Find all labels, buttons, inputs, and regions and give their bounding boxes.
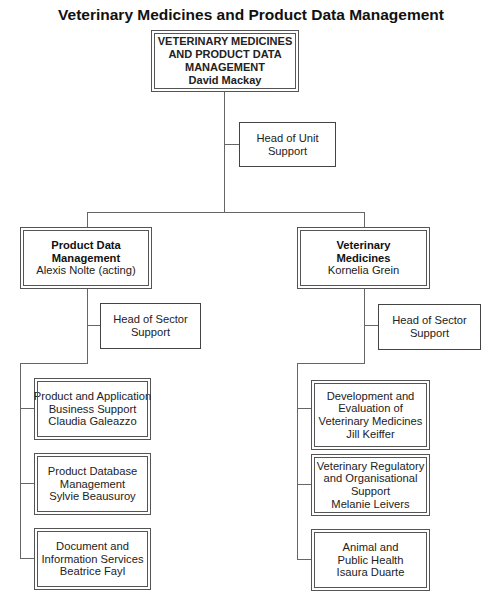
chart-title-text: Veterinary Medicines and Product Data Ma…	[58, 6, 444, 23]
connector-unit-support	[224, 144, 239, 145]
section-line: Document and	[56, 540, 129, 553]
connector-pdm-sections-bar	[20, 363, 88, 364]
sector-head-name: Kornelia Grein	[328, 264, 400, 277]
connector-vm-support	[364, 325, 378, 326]
section-line: Veterinary Regulatory	[317, 460, 425, 473]
vm-head-of-sector-support-box: Head of Sector Support	[378, 304, 481, 350]
connector-pdm-section-3	[20, 558, 34, 559]
pdm-head-of-sector-support-box: Head of Sector Support	[100, 303, 201, 349]
unit-name-line-2: AND PRODUCT DATA	[168, 48, 281, 61]
connector-pdm-section-2	[20, 483, 34, 484]
section-line: Development and	[327, 390, 415, 403]
section-box-product-database-management: Product Database Management Sylvie Beaus…	[34, 453, 151, 515]
connector-pdm-up	[87, 212, 88, 227]
unit-name-line-3: MANAGEMENT	[185, 61, 265, 74]
connector-pdm-section-1	[20, 408, 34, 409]
section-box-document-information-services: Document and Information Services Beatri…	[34, 528, 151, 590]
connector-vm-sections-bar	[297, 363, 365, 364]
connector-pdm-sections-trunk	[20, 363, 21, 559]
section-line: Product and Application	[34, 390, 152, 403]
section-box-vet-regulatory-organisational-support: Veterinary Regulatory and Organisational…	[311, 454, 430, 516]
sector-head-name: Alexis Nolte (acting)	[36, 264, 135, 277]
section-box-development-evaluation-vet-medicines: Development and Evaluation of Veterinary…	[311, 380, 430, 450]
support-line-1: Head of Sector	[113, 313, 188, 326]
section-head-name: Sylvie Beausuroy	[49, 490, 135, 503]
connector-vm-up	[364, 212, 365, 227]
sector-name-line-1: Product Data	[51, 239, 121, 252]
connector-vm-section-1	[297, 408, 311, 409]
section-line: Information Services	[42, 553, 144, 566]
section-line: Product Database	[48, 465, 138, 478]
unit-support-line-2: Support	[268, 145, 307, 158]
unit-support-line-1: Head of Unit	[256, 132, 318, 145]
connector-vm-down	[364, 288, 365, 364]
section-line: Evaluation of	[338, 402, 403, 415]
sector-box-veterinary-medicines: Veterinary Medicines Kornelia Grein	[297, 227, 430, 289]
sector-box-product-data-management: Product Data Management Alexis Nolte (ac…	[20, 227, 152, 289]
chart-title: Veterinary Medicines and Product Data Ma…	[0, 6, 498, 24]
connector-vm-sections-trunk	[297, 363, 298, 560]
section-head-name: Claudia Galeazzo	[48, 415, 136, 428]
section-line: Veterinary Medicines	[319, 415, 423, 428]
support-line-2: Support	[410, 327, 449, 340]
section-head-name: Isaura Duarte	[337, 566, 405, 579]
connector-pdm-down	[87, 288, 88, 364]
section-head-name: Jill Keiffer	[346, 428, 394, 441]
unit-name-line-1: VETERINARY MEDICINES	[158, 35, 292, 48]
section-line: Management	[60, 478, 125, 491]
head-of-unit-support-box: Head of Unit Support	[239, 122, 336, 167]
section-line: and Organisational	[324, 472, 418, 485]
support-line-2: Support	[131, 326, 170, 339]
section-line: Public Health	[338, 554, 404, 567]
connector-sectors-bar	[87, 212, 365, 213]
section-line: Animal and	[343, 541, 399, 554]
support-line-1: Head of Sector	[392, 314, 467, 327]
section-box-product-application-business-support: Product and Application Business Support…	[34, 378, 151, 440]
unit-head-name: David Mackay	[189, 74, 262, 87]
connector-vm-section-3	[297, 559, 311, 560]
connector-vm-section-2	[297, 484, 311, 485]
connector-head-down	[224, 91, 225, 213]
connector-pdm-support	[87, 325, 100, 326]
sector-name-line-2: Medicines	[336, 252, 390, 265]
sector-name-line-2: Management	[52, 252, 120, 265]
section-line: Business Support	[49, 403, 137, 416]
section-head-name: Melanie Leivers	[331, 498, 409, 511]
sector-name-line-1: Veterinary	[336, 239, 390, 252]
section-line: Support	[351, 485, 390, 498]
section-head-name: Beatrice Fayl	[60, 565, 125, 578]
unit-head-box: VETERINARY MEDICINES AND PRODUCT DATA MA…	[151, 30, 299, 92]
section-box-animal-public-health: Animal and Public Health Isaura Duarte	[311, 529, 430, 591]
